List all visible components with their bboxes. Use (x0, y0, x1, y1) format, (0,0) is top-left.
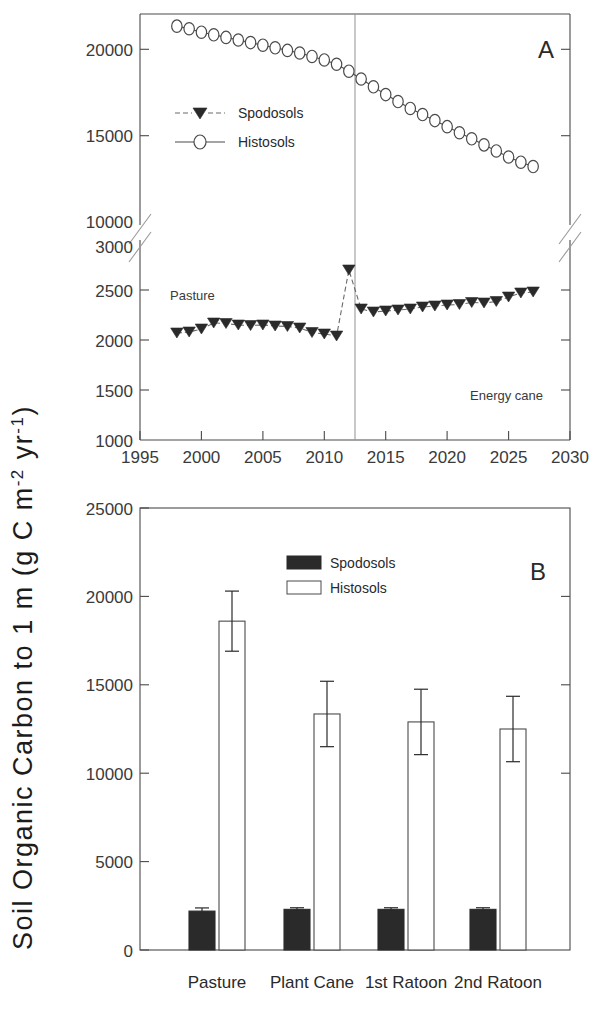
datapoint-histosols (528, 160, 538, 172)
panel-b-legend: Spodosols Histosols (287, 555, 395, 596)
y-axis-title-mid: yr (8, 434, 38, 469)
legend-marker-histosols-circle-icon (194, 135, 206, 149)
datapoint-histosols (405, 102, 415, 114)
figure-svg: Soil Organic Carbon to 1 m (g C m-2 yr-1… (0, 0, 616, 1010)
yticklabel-a-15000: 15000 (86, 127, 133, 146)
yticklabel-b-20000: 20000 (86, 588, 133, 607)
datapoint-histosols (221, 31, 231, 43)
xticklabel-a-2010: 2010 (305, 448, 343, 467)
yticklabel-b-0: 0 (124, 942, 133, 961)
bar-histosols-pasture (219, 621, 245, 950)
panel-a-legend-item-spodosols: Spodosols (175, 105, 303, 121)
datapoint-spodosols (515, 288, 527, 298)
datapoint-histosols (454, 127, 464, 139)
category-label-1st-ratoon: 1st Ratoon (365, 973, 447, 992)
datapoint-histosols (393, 95, 403, 107)
datapoint-histosols (270, 42, 280, 54)
datapoint-spodosols (453, 300, 465, 310)
panel-a-legend: Spodosols Histosols (175, 105, 303, 150)
panel-a: 20000 15000 10000 3000 2500 2000 1500 10… (86, 14, 589, 467)
legend-label-histosols: Histosols (238, 134, 295, 150)
panel-a-y-ticklabels-upper: 20000 15000 10000 (86, 41, 133, 232)
datapoint-histosols (307, 50, 317, 62)
datapoint-histosols (356, 73, 366, 85)
y-axis-title-main: Soil Organic Carbon to 1 m (g C m (8, 486, 38, 950)
yticklabel-a-10000: 10000 (86, 213, 133, 232)
panel-b-letter: B (530, 558, 546, 585)
y-axis-title-text: Soil Organic Carbon to 1 m (g C m-2 yr-1… (8, 405, 38, 950)
datapoint-spodosols (502, 292, 514, 302)
xticklabel-a-2030: 2030 (551, 448, 589, 467)
xticklabel-a-2000: 2000 (182, 448, 220, 467)
yticklabel-a-3000: 3000 (95, 238, 133, 257)
xticklabel-a-2005: 2005 (244, 448, 282, 467)
bar-spodosols-pasture (189, 911, 215, 950)
datapoint-histosols (282, 44, 292, 56)
y-axis-title-sup1: -2 (8, 468, 27, 486)
yticklabel-a-20000: 20000 (86, 41, 133, 60)
bar-spodosols-plant-cane (284, 909, 310, 950)
datapoint-histosols (417, 108, 427, 120)
xticklabel-a-1995: 1995 (121, 448, 159, 467)
panel-b-legend-item-histosols: Histosols (287, 580, 387, 596)
bar-histosols-plant-cane (314, 714, 340, 950)
datapoint-histosols (295, 47, 305, 59)
datapoint-histosols (381, 88, 391, 100)
yticklabel-b-25000: 25000 (86, 500, 133, 519)
legend-swatch-spodosols-icon (287, 556, 321, 569)
xticklabel-a-2025: 2025 (490, 448, 528, 467)
datapoint-histosols (491, 145, 501, 157)
datapoint-histosols (245, 36, 255, 48)
bar-spodosols-1st-ratoon (378, 909, 404, 950)
panel-a-x-ticklabels: 1995 2000 2005 2010 2015 2020 2025 2030 (121, 448, 589, 467)
legend-swatch-histosols-icon (287, 581, 321, 594)
panel-b-y-ticklabels: 0 5000 10000 15000 20000 25000 (86, 500, 133, 961)
y-axis-title-end: ) (8, 405, 38, 416)
legend-label-b-histosols: Histosols (330, 580, 387, 596)
datapoint-histosols (172, 20, 182, 32)
panel-a-letter: A (538, 36, 554, 63)
datapoint-histosols (209, 29, 219, 41)
datapoint-histosols (479, 139, 489, 151)
datapoint-spodosols (478, 298, 490, 308)
yticklabel-a-2500: 2500 (95, 282, 133, 301)
xticklabel-a-2015: 2015 (367, 448, 405, 467)
datapoint-histosols (344, 65, 354, 77)
bar-spodosols-2nd-ratoon (470, 909, 496, 950)
datapoint-histosols (503, 151, 513, 163)
datapoint-histosols (467, 133, 477, 145)
legend-label-spodosols: Spodosols (238, 105, 303, 121)
datapoint-histosols (196, 26, 206, 38)
xticklabel-a-2020: 2020 (428, 448, 466, 467)
datapoint-histosols (516, 156, 526, 168)
panel-a-legend-item-histosols: Histosols (175, 134, 295, 150)
datapoint-histosols (331, 58, 341, 70)
yticklabel-b-10000: 10000 (86, 765, 133, 784)
bar-histosols-1st-ratoon (408, 722, 434, 950)
yticklabel-a-1500: 1500 (95, 382, 133, 401)
datapoint-spodosols (244, 321, 256, 331)
datapoint-spodosols (220, 319, 232, 329)
datapoint-histosols (258, 39, 268, 51)
datapoint-histosols (184, 23, 194, 35)
datapoint-spodosols (330, 331, 342, 341)
panel-b-legend-item-spodosols: Spodosols (287, 555, 395, 571)
y-axis-title-sup2: -1 (8, 416, 27, 434)
panel-b-bars (189, 591, 526, 950)
yticklabel-b-5000: 5000 (95, 853, 133, 872)
yticklabel-b-15000: 15000 (86, 676, 133, 695)
panel-a-y-ticklabels-lower: 3000 2500 2000 1500 1000 (95, 238, 133, 451)
datapoint-spodosols (195, 324, 207, 334)
datapoint-histosols (233, 34, 243, 46)
datapoint-histosols (319, 54, 329, 66)
yticklabel-a-2000: 2000 (95, 332, 133, 351)
datapoint-spodosols (306, 328, 318, 338)
datapoint-spodosols (343, 265, 355, 275)
legend-label-b-spodosols: Spodosols (330, 555, 395, 571)
category-label-2nd-ratoon: 2nd Ratoon (454, 973, 542, 992)
datapoint-histosols (368, 81, 378, 93)
panel-b-category-labels: Pasture Plant Cane 1st Ratoon 2nd Ratoon (188, 973, 542, 992)
legend-marker-spodosols-triangle-icon (193, 108, 207, 119)
datapoint-spodosols (355, 304, 367, 314)
datapoint-spodosols (367, 307, 379, 317)
